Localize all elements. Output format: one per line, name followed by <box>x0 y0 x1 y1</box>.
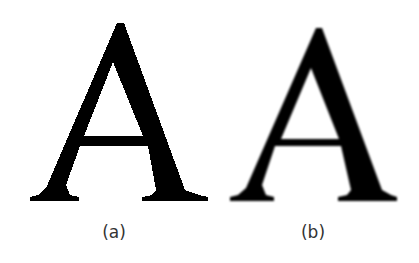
letter-a-aliased-glyph <box>0 0 210 210</box>
panel-antialiased: (b) <box>210 0 419 263</box>
panel-label-a: (a) <box>84 222 144 242</box>
panel-label-b: (b) <box>283 222 343 242</box>
panel-aliased: (a) <box>0 0 210 263</box>
letter-a-antialiased-glyph <box>210 0 419 210</box>
